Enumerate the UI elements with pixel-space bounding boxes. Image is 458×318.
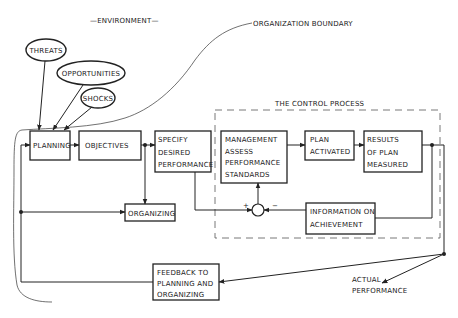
- threats-label: THREATS: [28, 47, 63, 55]
- svg-text:PERFORMANCE: PERFORMANCE: [158, 161, 213, 169]
- organization-boundary-label: ORGANIZATION BOUNDARY: [253, 20, 353, 28]
- svg-text:PLANNING: PLANNING: [33, 142, 71, 150]
- actual-performance-label-1: ACTUAL: [352, 276, 381, 284]
- svg-text:PERFORMANCE: PERFORMANCE: [225, 159, 280, 167]
- opportunities-arrow: [53, 85, 83, 130]
- threats-arrow: [39, 61, 45, 130]
- output-to-feedback-arrow: [219, 254, 444, 282]
- svg-text:DESIRED: DESIRED: [158, 149, 190, 157]
- svg-text:STANDARDS: STANDARDS: [225, 171, 270, 179]
- opportunities-label: OPPORTUNITIES: [62, 70, 121, 78]
- objectives-box: OBJECTIVES: [79, 131, 141, 160]
- control-process-diagram: —ENVIRONMENT— ORGANIZATION BOUNDARY THRE…: [0, 0, 458, 318]
- opportunities-node: OPPORTUNITIES: [57, 61, 125, 85]
- svg-text:ACHIEVEMENT: ACHIEVEMENT: [310, 221, 363, 229]
- svg-text:MEASURED: MEASURED: [367, 161, 408, 169]
- actual-performance-label-2: PERFORMANCE: [352, 287, 407, 295]
- svg-text:ORGANIZING: ORGANIZING: [128, 210, 175, 218]
- environment-label: —ENVIRONMENT—: [90, 17, 159, 25]
- comparator-minus: −: [272, 202, 278, 210]
- svg-text:MANAGEMENT: MANAGEMENT: [225, 136, 278, 144]
- specify-desired-performance-box: SPECIFY DESIRED PERFORMANCE: [155, 131, 213, 172]
- svg-text:OF PLAN: OF PLAN: [367, 149, 398, 157]
- svg-text:ASSESS: ASSESS: [225, 148, 254, 156]
- comparator-plus: +: [243, 202, 249, 210]
- organization-boundary-curve: [14, 23, 252, 302]
- feedback-box: FEEDBACK TO PLANNING AND ORGANIZING: [153, 264, 219, 300]
- planning-box: PLANNING: [30, 131, 71, 160]
- plan-activated-box: PLAN ACTIVATED: [305, 131, 354, 160]
- svg-text:RESULTS: RESULTS: [367, 136, 399, 144]
- svg-text:FEEDBACK TO: FEEDBACK TO: [157, 269, 209, 277]
- management-assess-box: MANAGEMENT ASSESS PERFORMANCE STANDARDS: [221, 131, 287, 183]
- threats-node: THREATS: [26, 39, 66, 61]
- shocks-label: SHOCKS: [83, 95, 114, 103]
- svg-text:OBJECTIVES: OBJECTIVES: [85, 142, 129, 150]
- svg-text:PLAN: PLAN: [310, 136, 329, 144]
- control-process-label: THE CONTROL PROCESS: [274, 100, 365, 108]
- svg-text:SPECIFY: SPECIFY: [158, 136, 188, 144]
- svg-text:ACTIVATED: ACTIVATED: [310, 148, 350, 156]
- shocks-node: SHOCKS: [81, 88, 115, 108]
- svg-text:INFORMATION ON: INFORMATION ON: [310, 208, 375, 216]
- svg-text:PLANNING AND: PLANNING AND: [157, 280, 213, 288]
- comparator-circle: [252, 204, 264, 216]
- svg-text:ORGANIZING: ORGANIZING: [157, 291, 204, 299]
- organizing-box: ORGANIZING: [125, 204, 175, 221]
- information-on-achievement-box: INFORMATION ON ACHIEVEMENT: [306, 203, 375, 234]
- results-measured-box: RESULTS OF PLAN MEASURED: [364, 131, 422, 172]
